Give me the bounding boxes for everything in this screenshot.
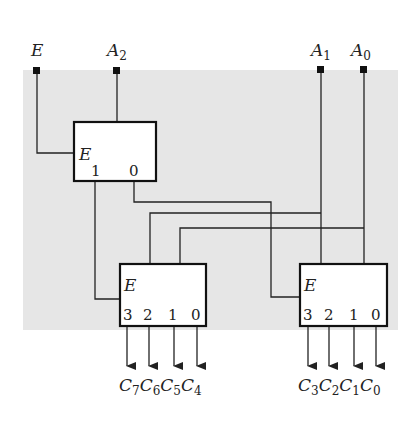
output-label-3: 3 [303, 306, 313, 324]
output-labels-left: C7C6C5C4 [119, 375, 202, 398]
output-label-3: 3 [123, 306, 133, 324]
output-label-1: 1 [349, 306, 359, 324]
enable-label: E [123, 275, 137, 295]
output-label-0: 0 [191, 306, 201, 324]
output-label-1: 1 [168, 306, 178, 324]
decoder-bottom-right: E 3 2 1 0 [300, 264, 387, 326]
decoder-tree-diagram: E A2 A1 A0 E 1 0 E 3 2 1 0 [0, 0, 411, 440]
output-labels-right: C3C2C1C0 [298, 375, 381, 398]
output-label-2: 2 [143, 306, 153, 324]
enable-label: E [303, 275, 317, 295]
input-label-a0: A0 [349, 40, 371, 63]
output-label-0: 0 [129, 162, 139, 180]
decoder-top: E 1 0 [74, 122, 156, 181]
terminal-e [33, 67, 40, 74]
terminal-a0 [360, 66, 367, 73]
output-label-1: 1 [91, 162, 101, 180]
enable-label: E [78, 144, 92, 164]
terminal-a2 [113, 67, 120, 74]
output-label-2: 2 [324, 306, 334, 324]
output-label-0: 0 [371, 306, 381, 324]
terminal-a1 [317, 66, 324, 73]
input-label-a1: A1 [309, 40, 331, 63]
output-arrows [127, 327, 376, 366]
input-label-e: E [30, 40, 44, 60]
decoder-bottom-left: E 3 2 1 0 [120, 264, 206, 326]
input-label-a2: A2 [105, 40, 127, 63]
